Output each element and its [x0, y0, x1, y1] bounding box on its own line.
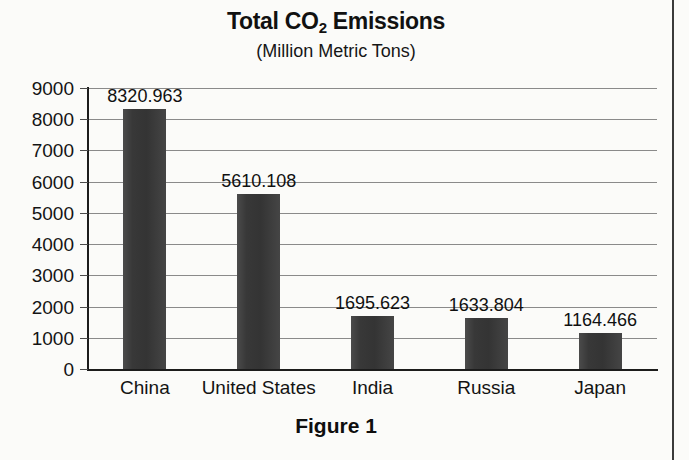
y-axis-tick-mark: [80, 244, 88, 245]
gridline: [88, 213, 657, 214]
chart-title-text-after: Emissions: [327, 8, 445, 34]
bar[interactable]: [237, 194, 280, 369]
y-axis-tick-mark: [80, 275, 88, 276]
y-axis-tick-label: 2000: [0, 298, 74, 317]
figure-container: Total CO2 Emissions (Million Metric Tons…: [0, 0, 689, 460]
gridline: [88, 182, 657, 183]
y-axis-tick-mark: [80, 338, 88, 339]
chart-title-text-before: Total CO: [227, 8, 319, 34]
bar[interactable]: [465, 318, 508, 369]
gridline: [88, 150, 657, 151]
bar-value-label: 8320.963: [80, 87, 210, 105]
gridline: [88, 119, 657, 120]
y-axis-tick-label: 6000: [0, 173, 74, 192]
gridline: [88, 275, 657, 276]
x-axis-line: [87, 369, 658, 371]
y-axis-tick-mark: [80, 213, 88, 214]
chart-subtitle: (Million Metric Tons): [0, 41, 672, 62]
chart-title-subscript: 2: [319, 19, 327, 36]
y-axis-tick-label: 0: [0, 360, 74, 379]
bar-value-label: 5610.108: [194, 172, 324, 190]
y-axis-tick-label: 1000: [0, 329, 74, 348]
chart-title: Total CO2 Emissions: [0, 8, 672, 35]
y-axis-tick-label: 4000: [0, 235, 74, 254]
y-axis-tick-mark: [80, 182, 88, 183]
bar-value-label: 1164.466: [535, 311, 665, 329]
bar-value-label: 1633.804: [421, 296, 551, 314]
bar[interactable]: [351, 316, 394, 369]
y-axis-tick-mark: [80, 307, 88, 308]
x-axis-tick-label: Japan: [525, 378, 675, 397]
y-axis-tick-mark: [80, 150, 88, 151]
bar[interactable]: [123, 109, 166, 369]
bar-value-label: 1695.623: [308, 294, 438, 312]
y-axis-tick-mark: [80, 119, 88, 120]
bar[interactable]: [579, 333, 622, 369]
y-axis-tick-label: 3000: [0, 266, 74, 285]
y-axis-tick-label: 8000: [0, 110, 74, 129]
y-axis-tick-label: 5000: [0, 204, 74, 223]
y-axis-line: [87, 87, 89, 371]
y-axis-tick-mark: [80, 369, 88, 370]
figure-caption: Figure 1: [0, 414, 672, 438]
gridline: [88, 244, 657, 245]
y-axis-tick-label: 9000: [0, 79, 74, 98]
y-axis-tick-label: 7000: [0, 141, 74, 160]
